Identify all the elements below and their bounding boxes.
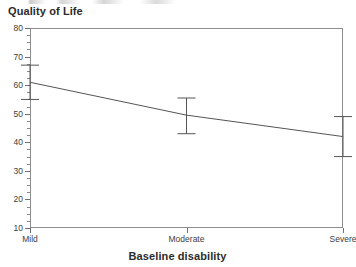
chart-title: Quality of Life: [8, 5, 83, 17]
error-bar-mild: [21, 65, 39, 99]
y-tick-label: 50: [14, 109, 23, 118]
x-tick: [187, 228, 188, 233]
y-tick-label: 70: [14, 52, 23, 61]
y-tick-label: 30: [14, 167, 23, 176]
x-tick-label-moderate: Moderate: [169, 235, 205, 244]
y-tick-label: 60: [14, 81, 23, 90]
series-layer: [30, 28, 343, 228]
y-tick-label: 80: [14, 24, 23, 33]
y-tick-label: 10: [14, 224, 23, 233]
x-tick: [343, 228, 344, 233]
plot-area: 8070605040302010 MildModerateSevere: [30, 28, 343, 228]
y-tick-label: 20: [14, 195, 23, 204]
y-tick-label: 40: [14, 138, 23, 147]
x-tick-label-severe: Severe: [330, 235, 356, 244]
x-axis-title: Baseline disability: [0, 250, 355, 262]
x-tick: [30, 228, 31, 233]
x-tick-label-mild: Mild: [22, 235, 38, 244]
scan-artifact-strip: [0, 0, 355, 4]
error-bar-severe: [334, 117, 352, 157]
